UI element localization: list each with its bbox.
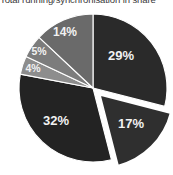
pie-label-29: 29%: [108, 48, 134, 63]
pie-label-5: 5%: [31, 45, 47, 57]
pie-label-4: 4%: [25, 62, 41, 74]
pie-chart-figure: Total running/synchronisation in share 2…: [0, 0, 173, 175]
pie-slices: [19, 14, 171, 166]
pie-chart-svg: 29% 17% 32% 4% 5% 14%: [0, 0, 173, 175]
pie-label-17: 17%: [118, 116, 144, 131]
pie-label-32: 32%: [43, 113, 69, 128]
pie-label-14: 14%: [53, 25, 77, 39]
